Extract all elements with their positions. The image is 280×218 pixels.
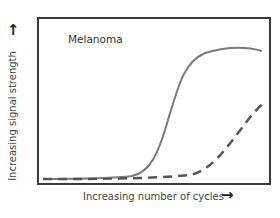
up-arrow-icon: ↑ — [7, 23, 20, 38]
chart-title: Melanoma — [68, 33, 123, 45]
right-arrow-icon: → — [221, 188, 234, 203]
solid-curve — [43, 48, 262, 179]
plot-area — [0, 0, 280, 218]
y-axis-label: Increasing signal strength — [7, 51, 18, 181]
y-axis-label-container: Increasing signal strength — [3, 43, 21, 188]
dashed-curve — [43, 103, 264, 179]
x-axis-label: Increasing number of cycles — [83, 191, 224, 202]
